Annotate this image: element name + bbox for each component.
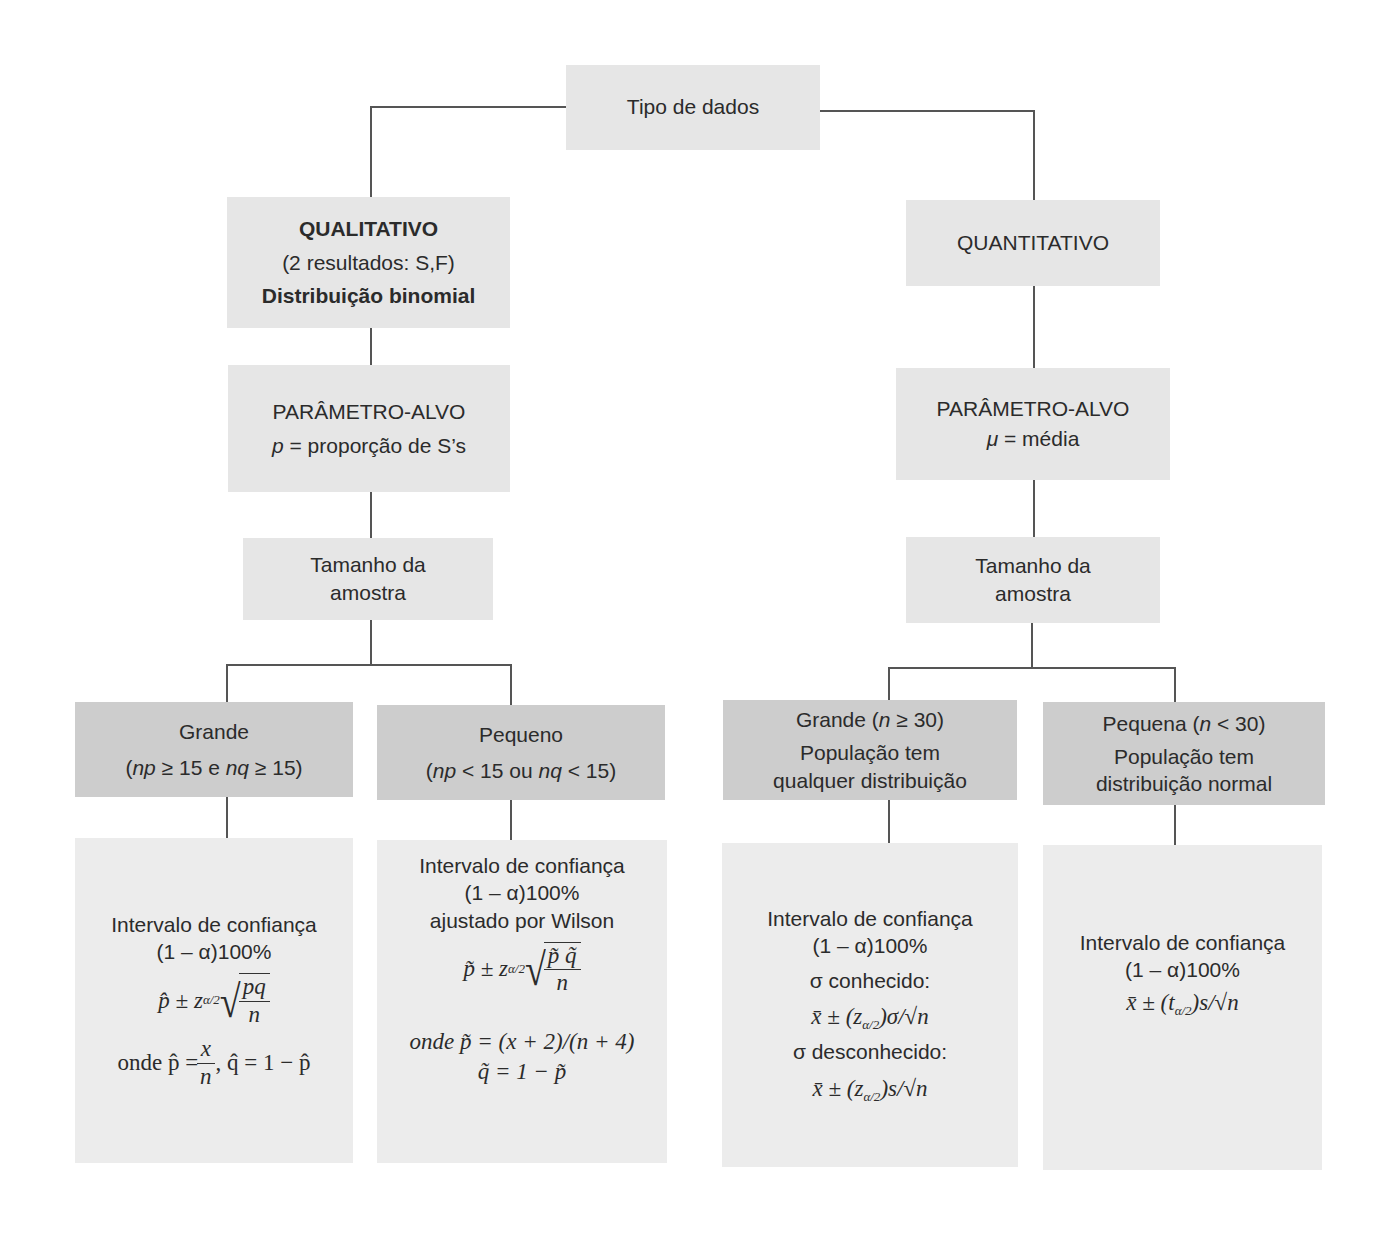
connector-qual-param xyxy=(370,328,372,366)
large-mean-title: Grande (n ≥ 30) xyxy=(796,706,944,733)
qualitative-distribution: Distribuição binomial xyxy=(262,279,476,313)
small-mean-line2: População tem xyxy=(1114,743,1254,770)
sqrt-icon: √ p̃ q̃n xyxy=(525,942,581,997)
node-parameter-proportion: PARÂMETRO-ALVO p = proporção de S’s xyxy=(228,365,510,492)
node-parameter-mean: PARÂMETRO-ALVO μ = média xyxy=(896,368,1170,480)
parameter-title-right: PARÂMETRO-ALVO xyxy=(937,394,1130,424)
sample-size-line2-left: amostra xyxy=(330,579,406,607)
sample-size-line2-right: amostra xyxy=(995,580,1071,608)
ci-formula-t: x̄ ± (tα/2)s/√n xyxy=(1126,988,1238,1020)
parameter-symbol-p: p xyxy=(272,434,284,457)
sample-size-line1-left: Tamanho da xyxy=(310,551,426,579)
large-binomial-title: Grande xyxy=(179,714,249,750)
qualitative-title: QUALITATIVO xyxy=(299,212,438,246)
large-mean-line2: População tem xyxy=(800,739,940,766)
connector-split-small-right xyxy=(1174,667,1176,703)
root-node-data-type: Tipo de dados xyxy=(566,65,820,150)
node-large-mean: Grande (n ≥ 30) População tem qualquer d… xyxy=(723,700,1017,800)
ci-where-large-proportion: onde p̂ = xn , q̂ = 1 − p̂ xyxy=(117,1036,310,1090)
connector-root-right-h xyxy=(820,110,1035,112)
node-sample-size-left: Tamanho da amostra xyxy=(243,538,493,620)
ci-sigma-unknown-label: σ desconhecido: xyxy=(793,1038,947,1065)
node-qualitative: QUALITATIVO (2 resultados: S,F) Distribu… xyxy=(227,197,510,328)
connector-quant-param xyxy=(1033,286,1035,369)
connector-size-split-right xyxy=(1031,623,1033,668)
ci-heading: Intervalo de confiança xyxy=(1080,929,1285,956)
connector-split-small-left xyxy=(510,664,512,706)
connector-split-large-right xyxy=(888,667,890,701)
ci-level: (1 – α)100% xyxy=(813,932,928,959)
large-binomial-condition: (np ≥ 15 e nq ≥ 15) xyxy=(125,750,302,786)
small-binomial-condition: (np < 15 ou nq < 15) xyxy=(426,753,616,789)
connector-large-result-left xyxy=(226,797,228,839)
result-small-mean-ci: Intervalo de confiança (1 – α)100% x̄ ± … xyxy=(1043,845,1322,1170)
ci-formula-large-proportion: p̂ ± zα/2 √ pqn xyxy=(158,973,269,1028)
connector-root-left-v xyxy=(370,106,372,198)
node-large-binomial: Grande (np ≥ 15 e nq ≥ 15) xyxy=(75,702,353,797)
ci-formula-sigma-unknown: x̄ ± (zα/2)s/√n xyxy=(812,1074,927,1106)
ci-heading: Intervalo de confiança xyxy=(767,905,972,932)
result-large-mean-ci: Intervalo de confiança (1 – α)100% σ con… xyxy=(722,843,1018,1167)
sqrt-icon: √ pqn xyxy=(220,973,270,1028)
node-small-binomial: Pequeno (np < 15 ou nq < 15) xyxy=(377,705,665,800)
ci-level: (1 – α)100% xyxy=(157,938,272,965)
node-sample-size-right: Tamanho da amostra xyxy=(906,537,1160,623)
ci-formula-wilson: p̃ ± zα/2 √ p̃ q̃n xyxy=(463,942,580,997)
connector-size-split-left xyxy=(370,620,372,665)
parameter-symbol-mu: μ xyxy=(987,427,999,450)
qualitative-subtitle: (2 resultados: S,F) xyxy=(282,246,455,280)
connector-split-left-h xyxy=(226,664,512,666)
root-label: Tipo de dados xyxy=(627,92,759,122)
parameter-definition-left: p = proporção de S’s xyxy=(272,429,466,463)
large-mean-line3: qualquer distribuição xyxy=(773,767,967,794)
connector-small-result-left xyxy=(510,800,512,841)
ci-where-wilson-p: onde p̃ = (x + 2)/(n + 4) xyxy=(410,1027,635,1057)
sample-size-line1-right: Tamanho da xyxy=(975,552,1091,580)
parameter-definition-right: μ = média xyxy=(987,424,1080,454)
ci-sigma-known-label: σ conhecido: xyxy=(810,967,930,994)
small-mean-title: Pequena (n < 30) xyxy=(1103,710,1266,737)
small-binomial-title: Pequeno xyxy=(479,717,563,753)
parameter-title-left: PARÂMETRO-ALVO xyxy=(273,395,466,429)
ci-where-wilson-q: q̃ = 1 − p̃ xyxy=(478,1057,567,1087)
node-small-mean: Pequena (n < 30) População tem distribui… xyxy=(1043,702,1325,805)
result-small-proportion-ci: Intervalo de confiança (1 – α)100% ajust… xyxy=(377,840,667,1163)
connector-param-size-left xyxy=(370,492,372,539)
connector-large-result-right xyxy=(888,800,890,844)
connector-root-right-v xyxy=(1033,110,1035,202)
node-quantitative: QUANTITATIVO xyxy=(906,200,1160,286)
connector-param-size-right xyxy=(1033,480,1035,538)
ci-adjust: ajustado por Wilson xyxy=(430,907,614,934)
quantitative-title: QUANTITATIVO xyxy=(957,228,1109,258)
connector-split-right-h xyxy=(888,667,1176,669)
connector-small-result-right xyxy=(1174,805,1176,846)
ci-level: (1 – α)100% xyxy=(1125,956,1240,983)
small-mean-line3: distribuição normal xyxy=(1096,770,1272,797)
result-large-proportion-ci: Intervalo de confiança (1 – α)100% p̂ ± … xyxy=(75,838,353,1163)
connector-split-large-left xyxy=(226,664,228,703)
ci-level: (1 – α)100% xyxy=(465,879,580,906)
ci-formula-sigma-known: x̄ ± (zα/2)σ/√n xyxy=(811,1002,928,1034)
connector-root-left-h xyxy=(371,106,567,108)
ci-heading: Intervalo de confiança xyxy=(111,911,316,938)
ci-heading: Intervalo de confiança xyxy=(419,852,624,879)
